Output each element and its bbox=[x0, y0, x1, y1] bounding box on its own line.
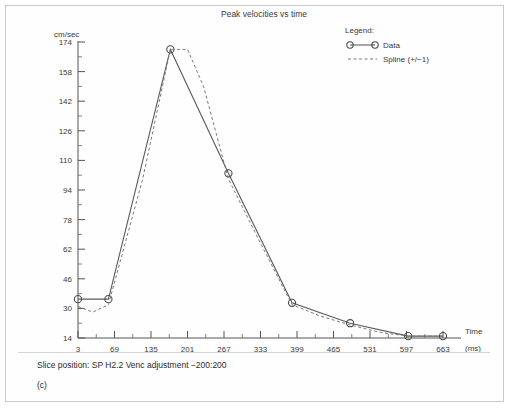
data-series-line bbox=[78, 49, 443, 336]
chart-plot-area: Peak velocities vs timecm/sec14304662789… bbox=[0, 0, 511, 409]
legend-heading: Legend: bbox=[345, 26, 374, 35]
chart-svg: Peak velocities vs timecm/sec14304662789… bbox=[0, 0, 511, 409]
y-axis-tick-label: 94 bbox=[63, 186, 72, 195]
panel-label: (c) bbox=[37, 380, 47, 390]
y-axis-tick-label: 110 bbox=[59, 156, 72, 165]
legend-entry-data-label: Data bbox=[383, 41, 400, 50]
y-axis-tick-label: 142 bbox=[59, 97, 73, 106]
y-axis-tick-label: 30 bbox=[63, 304, 72, 313]
y-axis-tick-label: 126 bbox=[59, 127, 73, 136]
slice-info-text: Slice position: SP H2.2 Venc adjustment … bbox=[37, 360, 227, 370]
y-axis-tick-label: 62 bbox=[63, 245, 72, 254]
chart-title: Peak velocities vs time bbox=[221, 9, 307, 19]
y-axis-tick-label: 174 bbox=[59, 38, 73, 47]
x-axis-label: Time bbox=[465, 327, 483, 336]
y-axis-tick-label: 78 bbox=[63, 216, 72, 225]
caption-divider bbox=[18, 352, 490, 353]
y-axis-tick-label: 158 bbox=[59, 68, 73, 77]
legend-entry-spline-label: Spline (+/−1) bbox=[383, 55, 429, 64]
y-axis-tick-label: 46 bbox=[63, 275, 72, 284]
y-axis-tick-label: 14 bbox=[63, 334, 72, 343]
spline-series-line bbox=[78, 49, 443, 336]
